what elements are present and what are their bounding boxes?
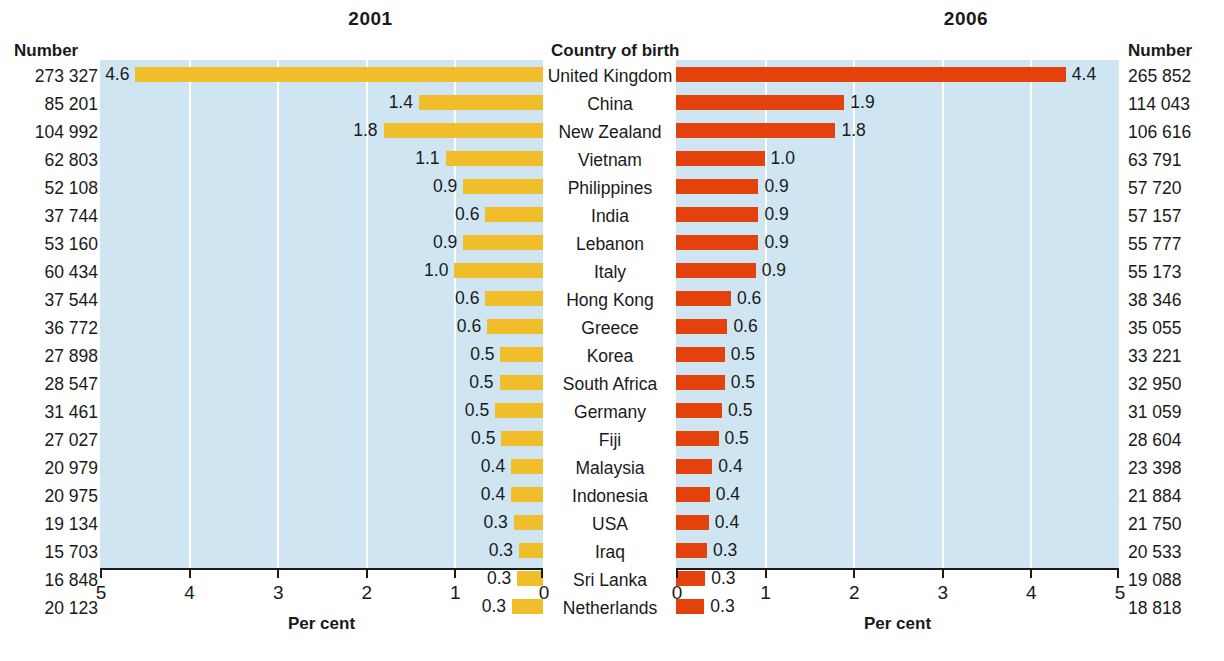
bar-value-label: 0.3 [483,508,507,536]
bar-row: 1.4 [100,88,543,116]
number-cell-2006: 57 157 [1119,202,1224,230]
bar-2006[interactable] [676,319,727,334]
bar-2006[interactable] [676,235,758,250]
axis-tick [366,568,368,578]
number-cell-2001: 27 898 [0,342,108,370]
axis-tick [942,568,944,578]
bar-2006[interactable] [676,151,765,166]
bar-2001[interactable] [511,487,543,502]
bar-row: 0.3 [100,508,543,536]
bar-value-label: 1.8 [353,116,377,144]
bar-2006[interactable] [676,123,835,138]
bar-value-label: 0.9 [764,172,788,200]
bar-2006[interactable] [676,291,731,306]
bar-row: 0.6 [676,312,1119,340]
axis-tick [189,568,191,578]
bar-2001[interactable] [454,263,543,278]
bar-value-label: 0.5 [725,424,749,452]
bar-value-label: 0.9 [433,172,457,200]
bar-2006[interactable] [676,263,756,278]
country-label: India [545,202,675,230]
bar-2001[interactable] [135,67,543,82]
axis-tick [853,568,855,578]
bar-row: 0.6 [100,312,543,340]
bar-value-label: 4.6 [105,60,129,88]
country-label: Vietnam [545,146,675,174]
bar-2001[interactable] [487,319,543,334]
bar-2006[interactable] [676,543,707,558]
bar-row: 0.5 [100,340,543,368]
bar-2006[interactable] [676,431,719,446]
country-label: China [545,90,675,118]
bar-2006[interactable] [676,403,722,418]
axis-tick-label: 5 [1105,582,1135,604]
column-header-country: Country of birth [551,41,679,61]
country-label: United Kingdom [545,62,675,90]
country-label: Malaysia [545,454,675,482]
bar-2001[interactable] [500,347,543,362]
bar-2001[interactable] [419,95,543,110]
bar-2006[interactable] [676,515,709,530]
bar-2006[interactable] [676,375,725,390]
bar-row: 0.9 [100,228,543,256]
bar-value-label: 0.9 [762,256,786,284]
bar-value-label: 0.4 [715,508,739,536]
number-cell-2001: 37 744 [0,202,108,230]
axis-tick [541,568,543,578]
x-axis-2006: 012345 [676,568,1119,569]
number-cell-2001: 19 134 [0,510,108,538]
bar-value-label: 1.8 [841,116,865,144]
axis-tick [277,568,279,578]
bar-2006[interactable] [676,347,725,362]
bar-2001[interactable] [384,123,543,138]
bar-row: 0.3 [676,536,1119,564]
bar-2006[interactable] [676,67,1066,82]
bar-value-label: 1.0 [424,256,448,284]
bar-2001[interactable] [485,291,543,306]
bar-value-label: 0.6 [455,200,479,228]
country-label: USA [545,510,675,538]
bar-2001[interactable] [514,515,543,530]
country-label: Korea [545,342,675,370]
bar-value-label: 0.4 [481,480,505,508]
bar-row: 0.5 [676,396,1119,424]
country-label: Sri Lanka [545,566,675,594]
bar-2001[interactable] [511,459,543,474]
bar-row: 0.5 [676,368,1119,396]
bar-2001[interactable] [519,543,543,558]
number-cell-2006: 114 043 [1119,90,1224,118]
bar-2006[interactable] [676,487,710,502]
bar-row: 0.6 [100,284,543,312]
bar-2006[interactable] [676,207,758,222]
axis-line-left [100,568,543,570]
number-cell-2001: 36 772 [0,314,108,342]
x-axis-2001: 543210 [100,568,543,569]
bar-2006[interactable] [676,179,758,194]
axis-tick-label: 2 [352,582,382,604]
bar-row: 4.4 [676,60,1119,88]
country-label: Greece [545,314,675,342]
bar-2001[interactable] [501,431,543,446]
number-cell-2001: 27 027 [0,426,108,454]
bar-2001[interactable] [446,151,543,166]
x-axis-title-left: Per cent [100,614,543,634]
number-cell-2001: 85 201 [0,90,108,118]
bar-2001[interactable] [463,179,543,194]
bar-row: 0.9 [676,172,1119,200]
bar-2001[interactable] [485,207,543,222]
bar-row: 1.8 [676,116,1119,144]
bar-value-label: 0.6 [455,284,479,312]
column-header-number-left: Number [14,41,78,61]
bar-row: 0.9 [676,256,1119,284]
bar-2006[interactable] [676,95,844,110]
bar-2001[interactable] [495,403,543,418]
axis-line-right [676,568,1119,570]
number-cell-2006: 23 398 [1119,454,1224,482]
bar-row: 0.4 [676,452,1119,480]
bar-2006[interactable] [676,459,712,474]
bar-2001[interactable] [463,235,543,250]
bar-value-label: 1.0 [771,144,795,172]
bar-value-label: 1.4 [389,88,413,116]
bar-2001[interactable] [500,375,543,390]
bar-row: 0.5 [100,424,543,452]
